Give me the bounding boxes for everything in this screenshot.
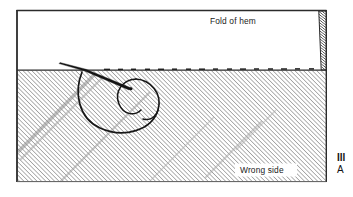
label-fold-of-hem: Fold of hem	[205, 15, 275, 27]
illustration-canvas: Fold of hem Wrong side Ill A	[0, 0, 353, 197]
label-fold-of-hem-text: Fold of hem	[210, 16, 256, 26]
fold-of-hem-panel	[17, 11, 326, 70]
label-wrong-side-text: Wrong side	[240, 165, 284, 175]
caption-line-1: Ill	[337, 152, 346, 163]
label-wrong-side: Wrong side	[235, 164, 297, 177]
hem-stitch-illustration: Fold of hem Wrong side Ill A	[0, 0, 353, 197]
caption-line-2: A	[337, 164, 344, 175]
needle-eye	[130, 87, 133, 90]
